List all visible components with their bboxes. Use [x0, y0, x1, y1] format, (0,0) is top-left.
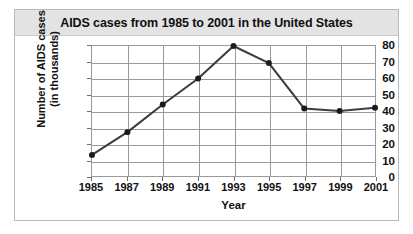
series-polyline: [92, 46, 375, 155]
data-point: [372, 105, 378, 111]
page-title: AIDS cases from 1985 to 2001 in the Unit…: [60, 16, 352, 30]
y-axis-label-line2: (in thousands): [48, 31, 61, 107]
data-series-line: [92, 46, 375, 176]
x-axis-tick-mark: [198, 177, 199, 181]
data-point: [337, 108, 343, 114]
x-axis-tick-label: 2001: [354, 181, 398, 193]
plot-wrapper: Number of AIDS cases (in thousands) 0102…: [15, 36, 400, 221]
data-point: [231, 43, 237, 49]
x-axis-tick-mark: [376, 177, 377, 181]
x-axis-tick-mark: [340, 177, 341, 181]
chart-title-bar: AIDS cases from 1985 to 2001 in the Unit…: [15, 10, 398, 36]
x-axis-tick-mark: [269, 177, 270, 181]
chart-figure-frame: AIDS cases from 1985 to 2001 in the Unit…: [14, 9, 399, 221]
x-axis-tick-mark: [305, 177, 306, 181]
data-point: [266, 60, 272, 66]
data-point: [195, 76, 201, 82]
series-markers: [89, 43, 378, 158]
x-axis-tick-mark: [162, 177, 163, 181]
x-axis-tick-mark: [127, 177, 128, 181]
plot-area: [91, 45, 376, 177]
y-axis-label-line1: Number of AIDS cases: [35, 10, 48, 128]
x-axis-tick-mark: [91, 177, 92, 181]
data-point: [89, 152, 95, 158]
x-axis-label: Year: [91, 199, 376, 211]
x-axis-tick-mark: [234, 177, 235, 181]
data-point: [124, 129, 130, 135]
data-point: [301, 106, 307, 112]
data-point: [160, 102, 166, 108]
y-axis-label: Number of AIDS cases (in thousands): [33, 9, 63, 129]
